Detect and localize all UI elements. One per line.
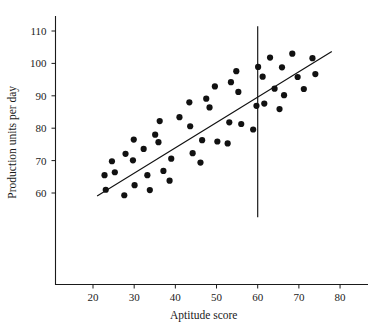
x-tick-label-40: 40 (170, 291, 182, 303)
scatter-plot-figure: 20304050607080 60708090100110 Aptitude s… (0, 0, 375, 325)
data-point (199, 137, 205, 143)
data-point (281, 92, 287, 98)
x-tick-label-70: 70 (293, 291, 305, 303)
data-point (253, 103, 259, 109)
plot-canvas: 20304050607080 60708090100110 Aptitude s… (0, 0, 375, 325)
y-tick-label-110: 110 (30, 25, 47, 37)
y-tick-label-60: 60 (36, 187, 48, 199)
data-point (261, 100, 267, 106)
data-point (228, 79, 234, 85)
data-point (250, 126, 256, 132)
y-tick-label-80: 80 (36, 122, 48, 134)
data-point (289, 51, 295, 57)
data-point (147, 187, 153, 193)
data-point (238, 121, 244, 127)
data-point (157, 118, 163, 124)
data-point (206, 104, 212, 110)
data-point (276, 106, 282, 112)
y-axis-title: Production units per day (6, 86, 19, 199)
x-tick-label-60: 60 (252, 291, 264, 303)
data-point (141, 146, 147, 152)
data-point (101, 172, 107, 178)
data-point (214, 138, 220, 144)
data-point (279, 64, 285, 70)
data-point (168, 156, 174, 162)
data-point (109, 158, 115, 164)
data-point (112, 169, 118, 175)
y-tick-marks (52, 31, 56, 193)
data-point (160, 168, 166, 174)
data-point (203, 96, 209, 102)
data-point (235, 89, 241, 95)
data-point (131, 182, 137, 188)
x-tick-labels: 20304050607080 (88, 291, 347, 303)
x-tick-label-20: 20 (88, 291, 100, 303)
data-point (260, 74, 266, 80)
data-point (233, 68, 239, 74)
data-point (131, 136, 137, 142)
axis-group (52, 16, 369, 289)
data-point (226, 119, 232, 125)
data-point (130, 157, 136, 163)
axis-lines (56, 16, 369, 285)
data-point (121, 192, 127, 198)
data-point (155, 139, 161, 145)
data-point (152, 132, 158, 138)
y-tick-label-100: 100 (30, 57, 47, 69)
data-point (295, 74, 301, 80)
x-tick-marks (93, 285, 340, 289)
data-point (187, 123, 193, 129)
data-point (267, 54, 273, 60)
data-point (212, 83, 218, 89)
data-point (122, 151, 128, 157)
data-point (301, 86, 307, 92)
data-point (197, 159, 203, 165)
y-tick-label-70: 70 (36, 155, 48, 167)
x-tick-label-30: 30 (129, 291, 141, 303)
x-tick-label-50: 50 (211, 291, 223, 303)
y-tick-labels: 60708090100110 (30, 25, 47, 199)
data-point (312, 71, 318, 77)
data-point (225, 140, 231, 146)
data-point (186, 99, 192, 105)
data-point (166, 178, 172, 184)
data-point (309, 55, 315, 61)
data-point (144, 172, 150, 178)
x-tick-label-80: 80 (335, 291, 347, 303)
data-point (176, 114, 182, 120)
data-point (190, 150, 196, 156)
regression-line (97, 51, 332, 196)
x-axis-title: Aptitude score (170, 309, 237, 322)
data-points-group (101, 51, 318, 199)
y-tick-label-90: 90 (36, 90, 48, 102)
